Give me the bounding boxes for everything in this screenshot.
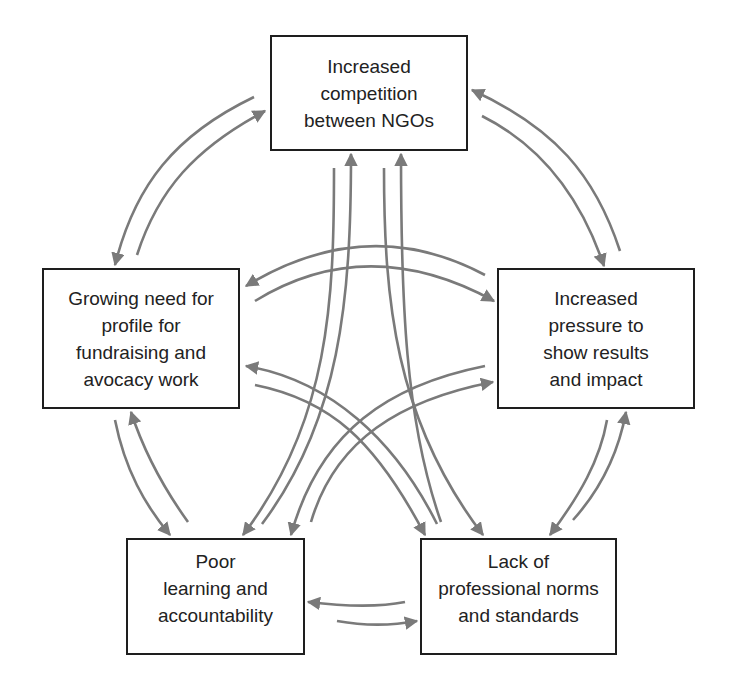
arrow-profile-to-competition: [137, 111, 265, 255]
node-growing-need-for-profile: Growing need for profile for fundraising…: [42, 268, 240, 409]
arrow-competition-to-profile: [115, 97, 254, 265]
node-poor-learning: Poor learning and accountability: [126, 538, 305, 655]
node-lack-of-norms: Lack of professional norms and standards: [420, 538, 617, 655]
arrow-profile-to-norms: [255, 385, 425, 535]
arrow-competition-to-pressure: [482, 116, 604, 266]
node-label: Lack of professional norms and standards: [438, 548, 599, 629]
node-label: Growing need for profile for fundraising…: [68, 285, 214, 393]
arrow-profile-to-learning: [115, 420, 170, 535]
node-increased-competition: Increased competition between NGOs: [270, 35, 468, 151]
arrow-norms-to-pressure: [573, 412, 626, 520]
arrow-competition-to-learning: [243, 168, 334, 535]
arrow-pressure-to-competition: [472, 90, 620, 251]
node-label: Increased competition between NGOs: [304, 53, 434, 134]
arrow-learning-to-profile: [131, 412, 188, 522]
arrow-profile-to-pressure: [255, 267, 494, 302]
arrow-norms-to-learning: [308, 602, 405, 606]
arrow-competition-to-norms: [384, 168, 483, 535]
arrow-norms-to-competition: [401, 154, 441, 522]
causal-loop-diagram: Increased competition between NGOs Growi…: [0, 0, 744, 693]
node-label: Poor learning and accountability: [158, 548, 273, 629]
arrow-learning-to-norms: [337, 621, 417, 625]
node-increased-pressure: Increased pressure to show results and i…: [497, 268, 695, 409]
node-label: Increased pressure to show results and i…: [543, 285, 649, 393]
arrow-pressure-to-norms: [550, 420, 607, 535]
